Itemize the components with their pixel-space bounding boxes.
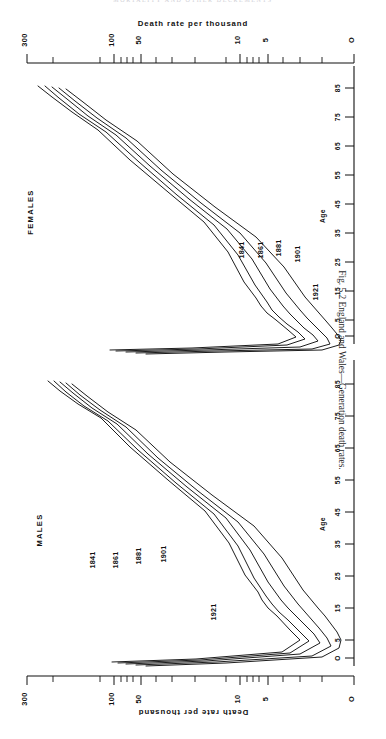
- rate-axis-top: 300 100 50 10 5 O Death rate per thousan…: [20, 19, 356, 63]
- cohort-label-females-1901: 1901: [293, 246, 302, 263]
- panel-title-males: MALES: [35, 513, 44, 546]
- curve-females-1881: [52, 87, 318, 352]
- curve-males-1841: [48, 381, 300, 662]
- figure-page: MORTALITY AND OTHER DECREMENTS: [0, 0, 386, 739]
- rate-tick-label-0: O: [347, 37, 356, 43]
- rate-axis-title-top: Death rate per thousand: [138, 19, 248, 28]
- curves-females: [38, 86, 341, 354]
- rate-tick-label-bottom-300: 300: [20, 692, 29, 706]
- age-tick-males-25: 25: [334, 572, 341, 580]
- age-tick-females-55: 55: [334, 171, 341, 179]
- curve-males-1921: [72, 384, 341, 666]
- cohort-label-males-1901: 1901: [159, 546, 168, 563]
- cohort-label-males-1881: 1881: [134, 548, 143, 565]
- rate-tick-label-10: 10: [233, 35, 242, 44]
- age-tick-males-5: 5: [334, 638, 341, 642]
- age-tick-females-65: 65: [334, 142, 341, 150]
- rate-tick-label-bottom-100: 100: [107, 692, 116, 706]
- panel-males: O 5 15 25 35 45 55 65 75 85 Age: [35, 360, 354, 666]
- cohort-label-males-1861: 1861: [111, 552, 120, 569]
- curve-males-1881: [60, 382, 320, 664]
- cohort-label-females-1921: 1921: [311, 284, 320, 301]
- panel-females: O 5 15 25 35 45 55 65 75 85 Age 1841 18: [26, 66, 354, 354]
- rate-tick-label-bottom-5: 5: [261, 697, 270, 702]
- cohort-label-males-1841: 1841: [88, 552, 97, 569]
- age-tick-males-45: 45: [334, 508, 341, 516]
- cohort-label-females-1861: 1861: [256, 242, 265, 259]
- rate-tick-label-50: 50: [134, 35, 143, 44]
- figure-caption: Fig. 5.2 England and Wales—Generation de…: [337, 240, 347, 500]
- curve-females-1841: [38, 86, 296, 350]
- curve-males-1861: [54, 381, 309, 663]
- age-tick-females-85: 85: [334, 84, 341, 92]
- age-tick-females-35: 35: [334, 229, 341, 237]
- rate-tick-label-5: 5: [261, 38, 270, 43]
- age-tick-females-45: 45: [334, 200, 341, 208]
- rate-tick-label-100: 100: [107, 33, 116, 47]
- age-tick-males-15: 15: [334, 604, 341, 612]
- generation-death-rates-chart: 300 100 50 10 5 O Death rate per thousan…: [0, 0, 386, 739]
- rate-axis-bottom: 300 100 50 10 5 O Death rate per thousan…: [20, 676, 356, 717]
- rate-tick-label-bottom-50: 50: [134, 694, 143, 703]
- age-tick-males-0: O: [334, 655, 341, 661]
- cohort-label-females-1881: 1881: [274, 240, 283, 257]
- cohort-label-males-1921: 1921: [209, 604, 218, 621]
- age-tick-males-35: 35: [334, 540, 341, 548]
- curves-males: [48, 381, 341, 666]
- age-tick-females-75: 75: [334, 113, 341, 121]
- cohort-label-females-1841: 1841: [237, 242, 246, 259]
- rate-axis-title-bottom: Death rate per thousand: [138, 708, 248, 717]
- rate-tick-label-300: 300: [20, 33, 29, 47]
- age-axis-title-females: Age: [319, 209, 327, 223]
- panel-title-females: FEMALES: [26, 189, 35, 234]
- rate-tick-label-bottom-10: 10: [233, 694, 242, 703]
- age-axis-title-males: Age: [319, 517, 327, 531]
- rate-tick-label-bottom-0: O: [347, 696, 356, 702]
